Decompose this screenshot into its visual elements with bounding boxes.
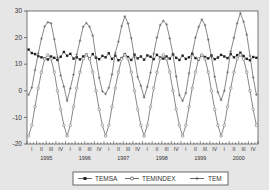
open-circle-marker-icon: [194, 71, 197, 74]
y-tick-label: -10: [13, 114, 23, 121]
x-quarter-label: IV: [58, 146, 63, 152]
filled-square-marker-icon: [27, 48, 29, 50]
open-circle-marker-icon: [50, 58, 53, 61]
filled-square-marker-icon: [207, 57, 209, 59]
open-circle-marker-icon: [101, 124, 104, 127]
open-circle-marker-icon: [88, 58, 91, 61]
open-circle-marker-icon: [31, 124, 34, 127]
open-circle-marker-icon: [91, 71, 94, 74]
open-circle-marker-icon: [111, 105, 114, 108]
filled-square-marker-icon: [149, 56, 151, 58]
open-circle-marker-icon: [98, 108, 101, 111]
open-circle-marker-icon: [239, 54, 242, 57]
filled-square-marker-icon: [226, 57, 228, 59]
open-circle-marker-icon: [175, 108, 178, 111]
filled-square-marker-icon: [156, 54, 158, 56]
open-circle-marker-icon: [236, 58, 239, 61]
open-circle-marker-icon: [149, 105, 152, 108]
open-circle-marker-icon: [178, 124, 181, 127]
x-quarter-label: II: [40, 146, 43, 152]
legend-label: TEMINDEX: [142, 175, 176, 182]
filled-square-marker-icon: [162, 57, 164, 59]
filled-square-marker-icon: [143, 58, 145, 60]
filled-square-marker-icon: [246, 58, 248, 60]
open-circle-marker-icon: [114, 87, 117, 90]
x-year-label: 1996: [79, 155, 91, 161]
filled-square-marker-icon: [69, 53, 71, 55]
filled-square-marker-icon: [223, 55, 225, 57]
open-circle-marker-icon: [159, 58, 162, 61]
open-circle-marker-icon: [104, 135, 107, 138]
x-quarter-label: III: [241, 146, 245, 152]
x-year-label: 2000: [233, 155, 245, 161]
open-circle-marker-icon: [156, 71, 159, 74]
x-quarter-label: II: [117, 146, 120, 152]
filled-square-marker-icon: [136, 57, 138, 59]
open-circle-marker-icon: [124, 54, 127, 57]
open-circle-marker-icon: [204, 58, 207, 61]
x-year-label: 1999: [194, 155, 206, 161]
filled-square-marker-icon: [242, 55, 244, 57]
open-circle-marker-icon: [255, 124, 258, 127]
open-circle-marker-icon: [217, 124, 220, 127]
filled-square-marker-icon: [217, 56, 219, 58]
open-circle-marker-icon: [245, 71, 248, 74]
filled-square-marker-icon: [31, 52, 33, 54]
open-circle-marker-icon: [242, 58, 245, 61]
filled-square-marker-icon: [104, 56, 106, 58]
x-year-label: 1998: [156, 155, 168, 161]
open-circle-marker-icon: [168, 71, 171, 74]
filled-square-marker-icon: [169, 57, 171, 59]
y-tick-label: 0: [18, 87, 22, 94]
open-circle-marker-icon: [34, 105, 37, 108]
open-circle-marker-icon: [146, 124, 149, 127]
line-chart: -20-100102030 IIIIIIIVIIIIIIIVIIIIIIIVII…: [0, 0, 269, 190]
chart-canvas: -20-100102030 IIIIIIIVIIIIIIIVIIIIIIIVII…: [0, 0, 269, 190]
open-circle-marker-icon: [252, 108, 255, 111]
x-quarter-label: IV: [251, 146, 256, 152]
filled-square-marker-icon: [181, 54, 183, 56]
open-circle-marker-icon: [59, 108, 62, 111]
open-circle-marker-icon: [40, 71, 43, 74]
open-circle-marker-icon: [223, 124, 226, 127]
filled-square-marker-icon: [178, 59, 180, 61]
x-quarter-label: IV: [135, 146, 140, 152]
filled-square-marker-icon: [72, 57, 74, 59]
filled-square-marker-icon: [111, 58, 113, 60]
x-quarter-label: II: [233, 146, 236, 152]
x-quarter-label: I: [31, 146, 32, 152]
open-circle-marker-icon: [229, 87, 232, 90]
filled-square-marker-icon: [194, 57, 196, 59]
filled-square-marker-icon: [252, 56, 254, 58]
open-circle-marker-icon: [213, 108, 216, 111]
open-circle-marker-icon: [66, 135, 69, 138]
open-circle-marker-icon: [82, 58, 85, 61]
filled-square-marker-icon: [47, 58, 49, 60]
x-quarter-label: I: [70, 146, 71, 152]
x-quarter-label: III: [49, 146, 53, 152]
filled-square-marker-icon: [101, 55, 103, 57]
open-circle-marker-icon: [188, 105, 191, 108]
filled-square-marker-icon: [40, 56, 42, 58]
open-circle-marker-icon: [201, 54, 204, 57]
open-circle-marker-icon: [249, 90, 252, 93]
x-quarter-label: IV: [212, 146, 217, 152]
x-quarter-label: I: [108, 146, 109, 152]
filled-square-marker-icon: [185, 58, 187, 60]
filled-square-marker-icon: [98, 58, 100, 60]
open-circle-marker-icon: [120, 58, 123, 61]
open-circle-marker-icon: [143, 135, 146, 138]
filled-square-marker-icon: [175, 57, 177, 59]
filled-square-marker-icon: [63, 51, 65, 53]
y-tick-label: 30: [15, 7, 23, 14]
x-quarter-label: III: [87, 146, 91, 152]
open-circle-marker-icon: [85, 54, 88, 57]
x-quarter-label: I: [224, 146, 225, 152]
y-tick-label: -20: [13, 140, 23, 147]
open-circle-marker-icon: [210, 90, 213, 93]
open-circle-marker-icon: [75, 87, 78, 90]
open-circle-marker-icon: [69, 124, 72, 127]
open-circle-marker-icon: [79, 71, 82, 74]
filled-square-marker-icon: [146, 54, 148, 56]
open-circle-marker-icon: [226, 105, 229, 108]
